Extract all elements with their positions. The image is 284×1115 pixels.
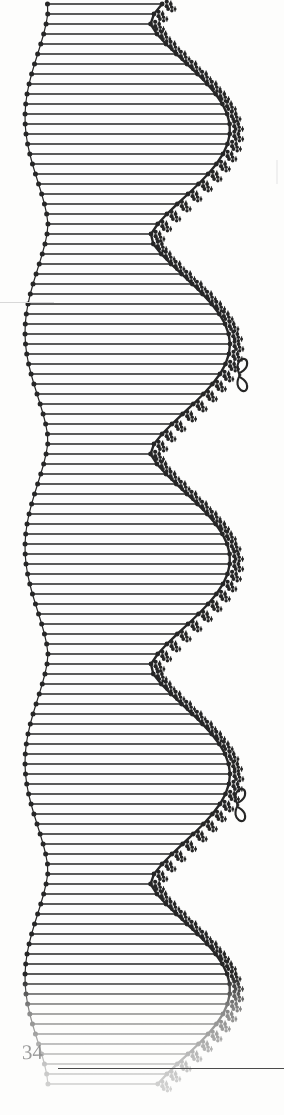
scanned-page: 34 [0, 0, 284, 1115]
plate-ink [23, 0, 248, 1092]
footer-rule [58, 1068, 284, 1069]
scan-artifact-line [0, 302, 54, 303]
scan-edge-mark [276, 160, 278, 184]
figure-eight-knots [235, 359, 247, 821]
figure-eight-knot [237, 359, 247, 391]
engraved-plate [0, 0, 284, 1115]
figure-eight-knot [235, 789, 245, 821]
hatch-lines [25, 4, 230, 1084]
page-number: 34 [22, 1040, 43, 1065]
